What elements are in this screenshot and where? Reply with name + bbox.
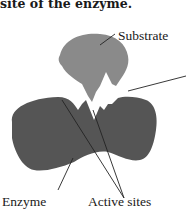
gap-leader-line	[128, 76, 186, 91]
active-sites-label: Active sites	[88, 194, 151, 209]
enzyme-label: Enzyme	[2, 194, 46, 209]
substrate-label: Substrate	[118, 28, 168, 43]
enzyme-substrate-diagram: Substrate Enzyme Active sites	[0, 0, 187, 212]
substrate-shape	[59, 34, 129, 102]
enzyme-shape	[12, 97, 157, 171]
